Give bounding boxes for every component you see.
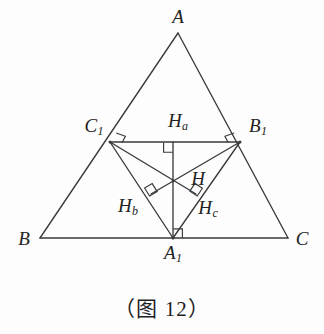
- perpendicular-C1-Hc: [110, 142, 196, 194]
- label-foot-hc-text: H: [198, 197, 212, 218]
- label-point-b1-text: B: [249, 115, 261, 136]
- label-vertex-c: C: [296, 229, 309, 248]
- geometry-figure: A B C C1 B1 A1 H Ha Hb Hc （图 12）: [0, 0, 324, 334]
- label-point-a1: A1: [164, 243, 182, 264]
- label-point-a1-text: A: [164, 242, 176, 263]
- label-vertex-b: B: [18, 229, 30, 248]
- label-foot-ha-text: H: [168, 110, 182, 131]
- right-angle-icon-c1: [116, 133, 125, 143]
- label-vertex-c-text: C: [296, 228, 309, 249]
- side-AB: [40, 33, 178, 238]
- label-point-c1-text: C: [84, 115, 97, 136]
- label-foot-hb-subscript: b: [132, 205, 138, 219]
- vertex-dot-c1: [109, 141, 112, 144]
- figure-caption: （图 12）: [0, 292, 324, 322]
- label-foot-hb: Hb: [118, 196, 138, 217]
- label-foot-hb-text: H: [118, 195, 132, 216]
- geometry-canvas: [0, 0, 324, 334]
- label-foot-ha: Ha: [168, 111, 188, 132]
- orthic-side-B1A1: [173, 142, 240, 238]
- label-foot-hc: Hc: [198, 198, 218, 219]
- label-point-c1: C1: [84, 116, 103, 137]
- label-point-b1-subscript: 1: [261, 125, 267, 139]
- label-vertex-b-text: B: [18, 228, 30, 249]
- label-vertex-a: A: [172, 7, 184, 26]
- label-foot-hc-subscript: c: [212, 207, 217, 221]
- vertex-dot-b1: [239, 141, 242, 144]
- label-orthocenter-h-text: H: [191, 168, 205, 189]
- label-point-a1-subscript: 1: [176, 252, 182, 266]
- orthic-side-C1A1: [110, 142, 173, 238]
- label-point-b1: B1: [249, 116, 267, 137]
- label-orthocenter-h: H: [191, 169, 205, 188]
- orthocenter-dot-h: [172, 180, 175, 183]
- vertex-dot-a1: [172, 237, 175, 240]
- label-point-c1-subscript: 1: [98, 125, 104, 139]
- label-foot-ha-subscript: a: [182, 120, 188, 134]
- label-vertex-a-text: A: [172, 6, 184, 27]
- right-angle-icon-ha: [164, 143, 173, 152]
